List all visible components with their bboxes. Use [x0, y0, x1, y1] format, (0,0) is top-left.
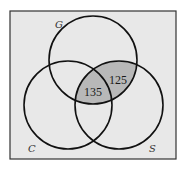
set-label-g: G [55, 19, 63, 30]
set-label-c: C [28, 143, 36, 154]
venn-diagram: G C S 125 135 [0, 0, 186, 169]
region-value-g-s: 125 [109, 73, 127, 87]
set-label-s: S [149, 143, 156, 154]
region-value-g-c-s: 135 [84, 85, 102, 99]
